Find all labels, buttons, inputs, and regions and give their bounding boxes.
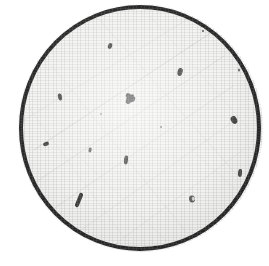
particle-field-image xyxy=(0,0,269,266)
particle xyxy=(160,126,162,128)
filter-disc xyxy=(18,4,263,252)
particle xyxy=(100,113,102,115)
disc-canvas xyxy=(18,4,263,252)
particle xyxy=(202,30,204,32)
particle xyxy=(238,69,240,72)
